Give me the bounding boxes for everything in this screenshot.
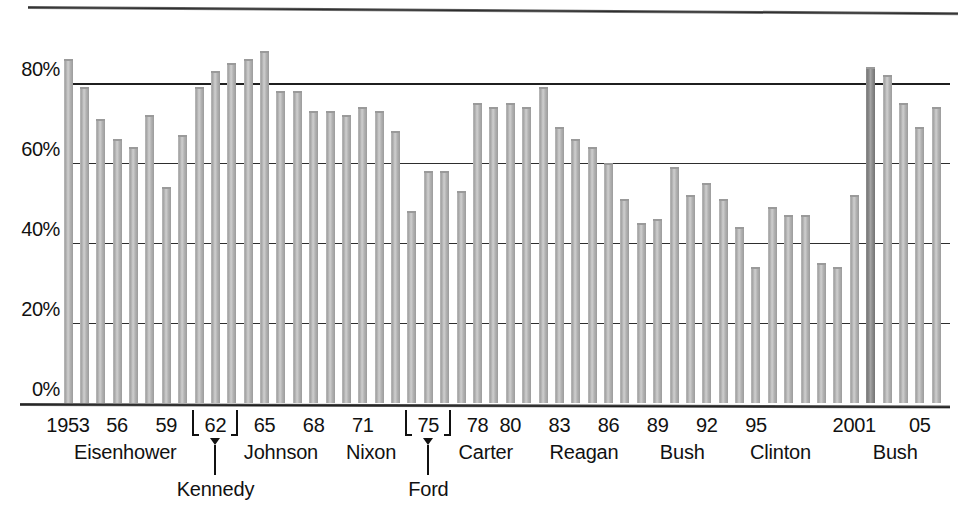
bar [833,267,842,403]
bar [506,103,515,403]
x-tick-label: 95 [745,414,767,437]
x-tick-label: 71 [352,414,374,437]
bar [620,199,629,403]
bar [358,107,367,403]
x-axis-labels: 19535659626568717578808386899295200105Ei… [0,0,973,110]
president-label: Reagan [550,441,619,464]
bar [489,107,498,403]
president-label: Nixon [346,441,396,464]
y-tick-label: 60% [20,138,60,161]
bar [96,119,105,403]
y-tick-label: 20% [20,298,60,321]
bar [473,103,482,403]
bar-chart: 80%60%40%20%0% 1953565962656871757880838… [0,0,973,513]
bar [719,199,728,403]
x-tick-label: 68 [303,414,325,437]
bar [440,171,449,403]
bar [424,171,433,403]
president-label: Clinton [750,441,811,464]
bar [899,103,908,403]
x-tick-label: 56 [106,414,128,437]
president-label: Ford [408,478,448,501]
bar [686,195,695,403]
x-tick-label: 2001 [833,414,876,437]
bar [375,111,384,403]
bar [293,91,302,403]
x-tick-label: 83 [549,414,571,437]
bracket-leader-line [214,445,216,475]
bar [113,139,122,403]
bar [588,147,597,403]
bar [326,111,335,403]
x-tick-label: 1953 [46,414,89,437]
bar [784,215,793,403]
x-tick-label: 65 [254,414,276,437]
bar [637,223,646,403]
president-label: Kennedy [177,478,255,501]
bar [178,135,187,403]
bar [80,87,89,403]
bar [211,71,220,403]
bar [571,139,580,403]
x-tick-label: 80 [499,414,521,437]
bar [391,131,400,403]
bar [866,67,875,403]
bar [735,227,744,403]
x-tick-label: 78 [467,414,489,437]
bar [227,63,236,403]
bar [539,87,548,403]
bar [702,183,711,403]
bar [653,219,662,403]
bar [195,87,204,403]
bar [129,147,138,403]
bar [883,75,892,403]
x-tick-label: 86 [598,414,620,437]
bar [817,263,826,403]
bar [522,107,531,403]
president-label: Bush [660,441,705,464]
bar [457,191,466,403]
bar [145,115,154,403]
bar [555,127,564,403]
president-label: Eisenhower [74,441,177,464]
bar [768,207,777,403]
x-tick-label: 75 [418,414,440,437]
bar [915,127,924,403]
x-tick-label: 05 [909,414,931,437]
bar [932,107,941,403]
bar [751,267,760,403]
x-tick-label: 92 [696,414,718,437]
y-tick-label: 40% [20,218,60,241]
y-tick-label: 0% [20,378,60,401]
x-tick-label: 59 [155,414,177,437]
bar [850,195,859,403]
bar [670,167,679,403]
president-label: Bush [873,441,918,464]
x-tick-label: 89 [647,414,669,437]
bar [407,211,416,403]
president-label: Johnson [244,441,318,464]
x-axis-baseline [20,403,950,409]
bar [162,187,171,403]
bar [604,163,613,403]
bar [244,59,253,403]
bar [309,111,318,403]
president-label: Carter [459,441,513,464]
bar [801,215,810,403]
bar [276,91,285,403]
bar [342,115,351,403]
bar [64,59,73,403]
bracket-leader-line [427,445,429,475]
x-tick-label: 62 [205,414,227,437]
